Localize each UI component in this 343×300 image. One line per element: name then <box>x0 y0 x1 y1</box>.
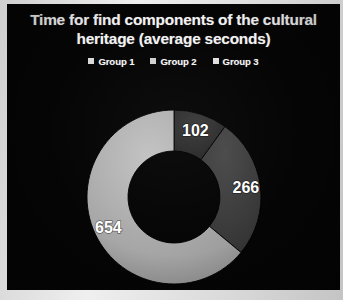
legend-item-group-3[interactable]: Group 3 <box>213 56 259 67</box>
legend-label-group-3: Group 3 <box>223 56 259 67</box>
legend-item-group-2[interactable]: Group 2 <box>150 56 196 67</box>
donut-svg: 102266654 <box>86 109 262 285</box>
slide-frame: Time for find components of the cultural… <box>0 0 343 300</box>
legend-swatch-icon <box>213 58 219 64</box>
donut-slices <box>86 110 260 284</box>
slice-value-label: 102 <box>182 122 209 139</box>
chart-canvas: Time for find components of the cultural… <box>7 4 340 290</box>
legend-label-group-1: Group 1 <box>98 56 134 67</box>
slice-value-label: 654 <box>95 219 122 236</box>
legend-swatch-icon <box>150 58 156 64</box>
legend-label-group-2: Group 2 <box>160 56 196 67</box>
donut-chart: 102266654 <box>86 109 262 285</box>
legend-item-group-1[interactable]: Group 1 <box>88 56 134 67</box>
legend-swatch-icon <box>88 58 94 64</box>
slice-value-label: 266 <box>232 179 259 196</box>
chart-title: Time for find components of the cultural… <box>7 10 340 48</box>
chart-legend: Group 1 Group 2 Group 3 <box>7 56 340 67</box>
